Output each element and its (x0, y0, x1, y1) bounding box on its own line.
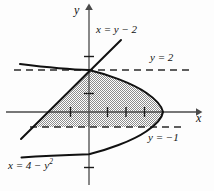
lower-bound-label: y = −1 (148, 132, 179, 143)
figure-canvas: y x x = y − 2 y = 2 y = −1 x = 4 − y2 (0, 0, 214, 191)
parabola-equation-label: x = 4 − y2 (8, 160, 53, 171)
x-axis-label: x (196, 112, 201, 124)
y-axis-label: y (74, 4, 79, 16)
upper-bound-label: y = 2 (150, 52, 173, 63)
line-equation-label: x = y − 2 (96, 24, 137, 35)
shaded-region (33, 70, 163, 127)
parabola-equation-exponent: 2 (49, 157, 53, 166)
parabola-equation-base: x = 4 − y (8, 159, 49, 171)
